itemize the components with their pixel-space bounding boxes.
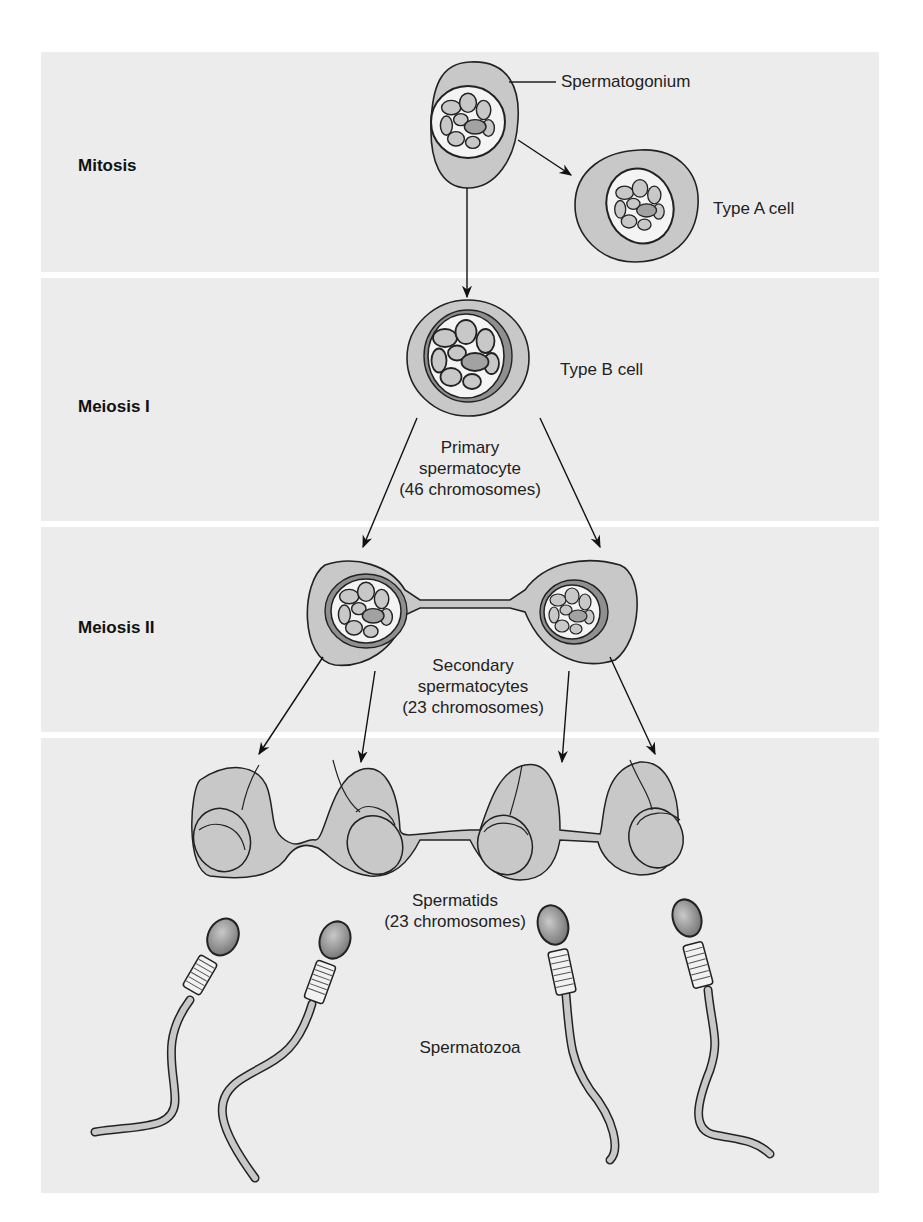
type-a-cell — [575, 150, 698, 262]
label-primary-line1: Primary — [380, 437, 560, 458]
label-type-b-cell: Type B cell — [560, 359, 643, 380]
spermatids — [185, 760, 690, 884]
label-primary-line2: spermatocyte — [380, 458, 560, 479]
spermatozoon-3 — [533, 902, 614, 1160]
spermatogonium-cell — [431, 62, 518, 188]
label-spermatids: Spermatids (23 chromosomes) — [365, 890, 545, 932]
label-spermatozoa: Spermatozoa — [380, 1037, 560, 1058]
label-type-a-cell: Type A cell — [713, 198, 794, 219]
label-secondary-line1: Secondary — [383, 655, 563, 676]
spermatozoon-2 — [222, 917, 355, 1178]
spermatozoon-4 — [668, 896, 770, 1154]
label-secondary-spermatocytes: Secondary spermatocytes (23 chromosomes) — [383, 655, 563, 718]
label-spermatids-line1: Spermatids — [365, 890, 545, 911]
label-secondary-line3: (23 chromosomes) — [383, 697, 563, 718]
label-secondary-line2: spermatocytes — [383, 676, 563, 697]
label-primary-spermatocyte: Primary spermatocyte (46 chromosomes) — [380, 437, 560, 500]
label-primary-line3: (46 chromosomes) — [380, 479, 560, 500]
type-b-cell — [407, 300, 529, 416]
label-spermatogonium: Spermatogonium — [561, 71, 690, 92]
secondary-spermatocytes — [307, 561, 637, 666]
label-spermatids-line2: (23 chromosomes) — [365, 911, 545, 932]
